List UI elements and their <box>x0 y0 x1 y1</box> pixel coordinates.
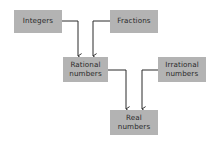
node-integers-label: Integers <box>23 17 53 26</box>
node-real-label-line2: numbers <box>118 123 151 132</box>
edge-integers-to-rational <box>62 21 78 56</box>
node-rational-numbers: Rational numbers <box>63 57 108 82</box>
node-fractions-label: Fractions <box>117 17 150 26</box>
node-irrational-numbers: Irrational numbers <box>158 57 206 82</box>
node-rational-label-line2: numbers <box>69 70 102 79</box>
node-integers: Integers <box>14 10 62 33</box>
node-fractions: Fractions <box>110 10 158 33</box>
edge-fractions-to-rational <box>93 21 110 56</box>
edge-rational-to-real <box>108 70 126 109</box>
edge-irrational-to-real <box>142 70 158 109</box>
node-real-numbers: Real numbers <box>110 110 158 135</box>
node-irrational-label-line2: numbers <box>166 70 199 79</box>
